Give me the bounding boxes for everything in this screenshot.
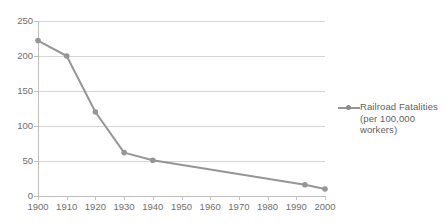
series-polyline <box>38 41 325 189</box>
legend-label-line2: (per 100,000 <box>360 113 438 125</box>
data-point-2000 <box>322 186 328 192</box>
chart-legend: Railroad Fatalities (per 100,000 workers… <box>338 101 444 136</box>
data-point-1940 <box>150 158 156 164</box>
data-point-1910 <box>64 53 70 59</box>
data-point-1930 <box>121 150 127 156</box>
legend-label: Railroad Fatalities (per 100,000 workers… <box>360 101 438 136</box>
series-markers <box>35 38 328 192</box>
legend-line-marker-icon <box>338 102 360 113</box>
railroad-fatalities-line-chart: 250200150100500 190019101920193019401950… <box>0 0 446 223</box>
legend-label-line3: workers) <box>360 124 438 136</box>
data-point-1900 <box>35 38 41 44</box>
legend-label-line1: Railroad Fatalities <box>360 101 438 113</box>
legend-entry: Railroad Fatalities (per 100,000 workers… <box>338 101 444 136</box>
data-point-1920 <box>93 109 99 115</box>
data-point-1993 <box>302 182 308 188</box>
